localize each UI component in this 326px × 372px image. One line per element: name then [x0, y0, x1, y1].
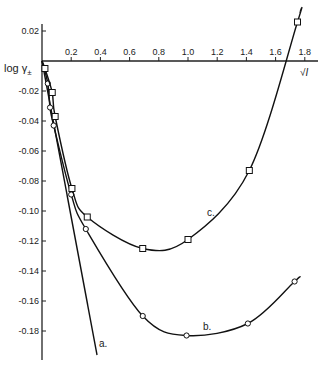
y-tick-label: -0.18 [18, 326, 39, 336]
label-b: b. [203, 321, 211, 332]
data-point [49, 90, 55, 96]
y-tick-label: -0.04 [18, 116, 39, 126]
y-tick-label: -0.08 [18, 176, 39, 186]
data-point [185, 237, 191, 243]
chart: 0.20.40.60.81.01.21.41.61.80.02-0.02-0.0… [0, 0, 326, 372]
data-point [69, 186, 75, 192]
series-b [42, 61, 300, 336]
x-tick-label: 1.2 [211, 47, 224, 57]
axes [42, 24, 318, 360]
data-point [246, 168, 252, 174]
data-point [292, 279, 297, 284]
data-point [295, 19, 301, 25]
x-axis-label: √I [300, 67, 308, 78]
data-point [51, 123, 56, 128]
data-point [52, 114, 58, 120]
y-tick-label: -0.02 [18, 86, 39, 96]
tick-labels: 0.20.40.60.81.01.21.41.61.80.02-0.02-0.0… [18, 26, 311, 336]
y-tick-label: -0.10 [18, 206, 39, 216]
y-tick-label: -0.16 [18, 296, 39, 306]
y-tick-label: 0.02 [21, 26, 39, 36]
x-tick-label: 1.6 [269, 47, 282, 57]
data-point [42, 66, 48, 72]
series-c [42, 7, 302, 250]
label-c: c. [207, 207, 215, 218]
y-tick-label: -0.12 [18, 236, 39, 246]
data-point [84, 214, 90, 220]
data-point [47, 105, 52, 110]
y-axis-label: log γ± [4, 62, 32, 77]
data-point [140, 313, 145, 318]
data-point [83, 226, 88, 231]
series-layer [42, 7, 302, 355]
data-point [245, 321, 250, 326]
x-tick-label: 0.6 [123, 47, 136, 57]
x-tick-label: 0.8 [153, 47, 166, 57]
y-tick-label: -0.06 [18, 146, 39, 156]
x-tick-label: 0.4 [94, 47, 107, 57]
data-point [184, 333, 189, 338]
data-point [140, 246, 146, 252]
x-tick-label: 1.4 [240, 47, 253, 57]
x-tick-label: 1.8 [299, 47, 312, 57]
x-tick-label: 1.0 [182, 47, 195, 57]
x-tick-label: 0.2 [65, 47, 78, 57]
label-a: a. [99, 338, 107, 349]
y-tick-label: -0.14 [18, 266, 39, 276]
